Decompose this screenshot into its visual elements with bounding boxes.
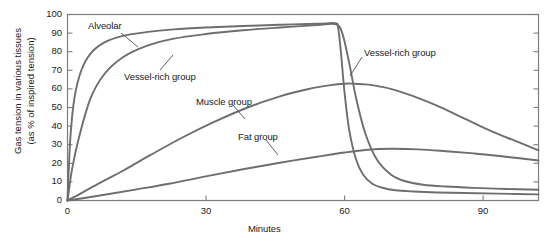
leader-line-vessel-rich-left [160,55,173,70]
curve-label-vessel-rich-right: Vessel-rich group [364,47,436,58]
y-tick-label: 100 [20,8,62,19]
x-axis-title: Minutes [248,223,281,234]
x-tick-label: 30 [181,205,231,216]
y-tick-label: 0 [20,194,62,205]
curves [68,23,539,200]
plot-frame [68,15,539,201]
y-tick-label: 20 [20,157,62,168]
curve-muscle-group [68,84,539,201]
y-tick-label: 90 [20,27,62,38]
curve-label-muscle: Muscle group [196,96,252,107]
curve-label-vessel-rich-left: Vessel-rich group [124,71,196,82]
leader-line-vessel-rich-right [350,57,362,76]
leader-line-fat [266,140,278,155]
y-tick-label: 10 [20,175,62,186]
curve-label-fat: Fat group [238,131,278,142]
y-tick-label: 70 [20,64,62,75]
curve-label-alveolar: Alveolar [88,20,122,31]
y-tick-label: 50 [20,101,62,112]
curve-vessel-rich-group [68,24,539,201]
x-tick-label: 90 [458,205,508,216]
figure-container: Gas tension in various tissues (as % of … [0,0,545,241]
y-tick-label: 80 [20,45,62,56]
x-tick-label: 0 [43,205,93,216]
axes [68,15,539,201]
y-tick-label: 40 [20,120,62,131]
x-tick-label: 60 [320,205,370,216]
y-tick-label: 30 [20,138,62,149]
y-tick-label: 60 [20,82,62,93]
